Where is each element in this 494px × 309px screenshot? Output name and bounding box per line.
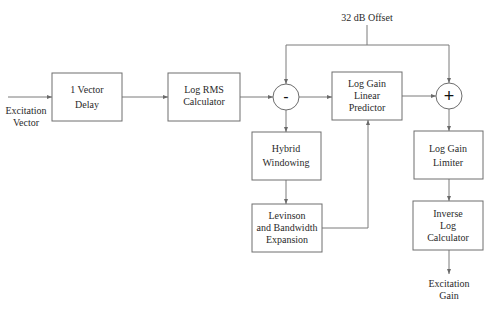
block-label: Predictor [349, 102, 386, 113]
block-label: Log Gain [348, 78, 386, 89]
add-node: + [436, 83, 462, 109]
block-vector-delay: 1 Vector Delay [52, 73, 122, 121]
output-label-line2: Gain [439, 290, 458, 301]
edge-levinson-predictor [322, 120, 368, 228]
block-label: Windowing [263, 157, 310, 168]
block-levinson-bandwidth-expansion: Levinson and Bandwidth Expansion [252, 204, 322, 252]
block-label: Expansion [266, 234, 308, 245]
offset-label: 32 dB Offset [341, 12, 393, 23]
block-label: Limiter [433, 157, 464, 168]
block-log-gain-limiter: Log Gain Limiter [414, 131, 483, 179]
connections [8, 25, 449, 274]
block-log-gain-linear-predictor: Log Gain Linear Predictor [332, 72, 402, 120]
subtract-node: - [273, 84, 299, 110]
block-label: Log RMS [184, 84, 224, 95]
block-label: Log Gain [429, 143, 467, 154]
block-label: Calculator [183, 96, 225, 107]
minus-symbol: - [283, 88, 288, 105]
block-label: and Bandwidth [257, 222, 318, 233]
input-label-line1: Excitation [5, 105, 46, 116]
block-label: 1 Vector [70, 84, 104, 95]
block-inverse-log-calculator: Inverse Log Calculator [413, 201, 483, 250]
plus-symbol: + [444, 86, 455, 106]
block-label: Levinson [268, 210, 305, 221]
output-label-line1: Excitation [428, 278, 469, 289]
block-label: Linear [354, 90, 381, 101]
input-label-line2: Vector [13, 117, 40, 128]
block-diagram: Excitation Vector 32 dB Offset Excitatio… [0, 0, 494, 309]
block-log-rms-calculator: Log RMS Calculator [168, 73, 240, 121]
block-label: Calculator [427, 232, 469, 243]
block-label: Hybrid [272, 143, 300, 154]
block-hybrid-windowing: Hybrid Windowing [252, 132, 321, 180]
block-label: Delay [75, 99, 99, 110]
block-label: Log [440, 220, 456, 231]
block-label: Inverse [433, 208, 463, 219]
